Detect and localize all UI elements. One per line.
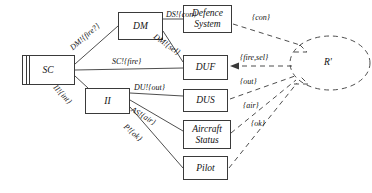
edge-sc-to-ii	[75, 76, 88, 88]
edge-ii-to-dus	[130, 93, 183, 96]
node-pilot-label: Pilot	[196, 163, 214, 174]
edge-label-pilot-to-rprime: {ok}	[251, 119, 265, 128]
node-rprime-label: R'	[324, 57, 332, 67]
edge-label-duf-to-rprime: {fire,sel}	[240, 53, 268, 62]
diagram-canvas: SC DM II Defence System DUF DUS Aircraft…	[0, 0, 372, 193]
node-dm-label: DM	[133, 21, 148, 32]
rprime-connector-kink-upper	[293, 45, 307, 52]
node-ii-label: II	[104, 96, 110, 107]
duf-arrowhead-icon	[230, 63, 239, 70]
node-defence-system-label-line2: System	[194, 19, 220, 30]
node-sc-label: SC	[42, 65, 53, 76]
node-duf-label: DUF	[196, 62, 216, 73]
edge-label-defence-system-to-rprime: {con}	[252, 13, 270, 22]
node-aircraft-status[interactable]: Aircraft Status	[183, 120, 231, 149]
node-pilot[interactable]: Pilot	[183, 156, 228, 180]
edge-defence-system-to-rprime	[233, 24, 300, 45]
edge-label-sc-to-duf: SC!{fire}	[112, 57, 141, 66]
node-ii[interactable]: II	[85, 88, 130, 114]
node-defence-system-label-line1: Defence	[192, 8, 223, 19]
edge-sc-to-duf	[75, 68, 183, 70]
node-aircraft-status-label-line1: Aircraft	[192, 124, 222, 135]
node-aircraft-status-label-line2: Status	[195, 135, 218, 146]
node-sc[interactable]: SC	[22, 55, 75, 85]
edge-label-dm-to-defence-system: DS!{con}	[166, 10, 196, 19]
edge-label-ii-to-dus: DU!{out}	[134, 83, 165, 92]
sc-double-bar-icon	[22, 56, 30, 84]
node-dus-label: DUS	[196, 95, 214, 106]
edge-label-aircraft-status-to-rprime: {air}	[243, 101, 259, 110]
edge-label-dus-to-rprime: {out}	[240, 77, 257, 86]
node-dus[interactable]: DUS	[183, 89, 228, 112]
node-duf[interactable]: DUF	[183, 55, 228, 80]
